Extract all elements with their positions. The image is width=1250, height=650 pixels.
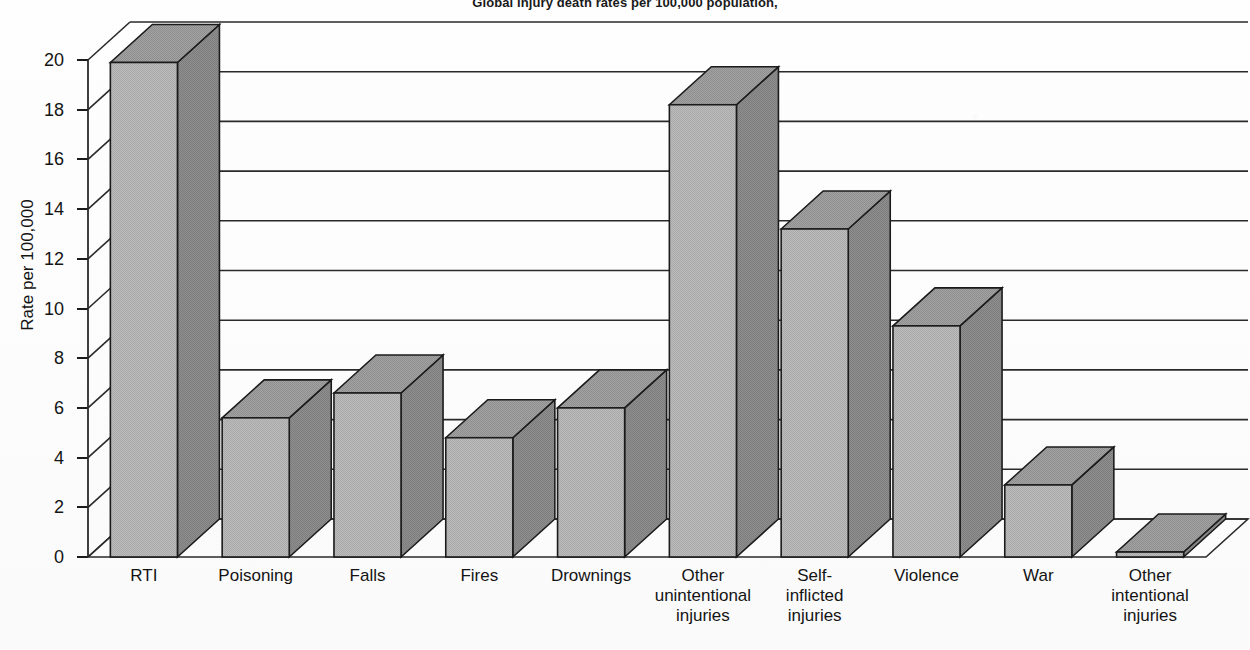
chart-page: Global injury death rates per 100,000 po… (0, 0, 1250, 650)
x-axis-tick-label: Other intentional injuries (1081, 566, 1219, 626)
bar-4 (558, 370, 667, 557)
bar-6 (781, 191, 890, 557)
bar-side-face (848, 191, 890, 557)
bar-5 (669, 67, 778, 557)
bar-side-face (177, 24, 219, 557)
bar-front-face (558, 408, 625, 557)
bar-1 (222, 380, 331, 557)
bar-side-face (736, 67, 778, 557)
bar-3 (446, 400, 555, 557)
bar-front-face (893, 326, 960, 557)
bar-front-face (334, 393, 401, 557)
bar-front-face (446, 438, 513, 557)
bar-front-face (1005, 485, 1072, 557)
plot-area (0, 0, 1250, 650)
bar-0 (110, 24, 219, 557)
bar-front-face (222, 418, 289, 557)
bar-front-face (669, 105, 736, 557)
bar-front-face (781, 229, 848, 557)
bar-2 (334, 355, 443, 557)
bar-front-face (1117, 552, 1184, 557)
bar-7 (893, 288, 1002, 557)
bar-series (110, 24, 1225, 557)
bar-9 (1117, 514, 1226, 557)
bar-front-face (110, 62, 177, 557)
bar-8 (1005, 447, 1114, 557)
bar-side-face (960, 288, 1002, 557)
